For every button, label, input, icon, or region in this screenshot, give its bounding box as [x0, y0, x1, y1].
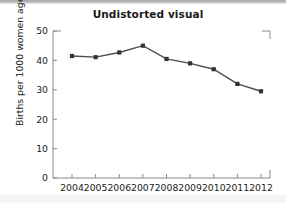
data-line-series	[72, 46, 261, 92]
x-tick-label: 2004	[60, 182, 84, 193]
data-point-marker	[141, 44, 145, 48]
y-tick-label: 30	[36, 84, 48, 95]
plot-area: 01020304050 2004200520062007200820092010…	[0, 0, 286, 203]
data-point-marker	[235, 82, 239, 86]
bottom-edge-band	[0, 195, 286, 203]
y-tick-label: 10	[36, 143, 48, 154]
y-tick-label: 50	[36, 25, 48, 36]
y-tick-label: 40	[36, 55, 48, 66]
x-tick-label: 2006	[107, 182, 131, 193]
x-tick-label: 2007	[131, 182, 155, 193]
data-point-marker	[259, 89, 263, 93]
data-point-marker	[164, 57, 168, 61]
x-tick-label: 2005	[84, 182, 108, 193]
data-point-marker	[94, 55, 98, 59]
y-axis-ticks: 01020304050	[36, 25, 57, 183]
data-point-marker	[117, 50, 121, 54]
data-point-marker	[212, 67, 216, 71]
axis-frame	[53, 31, 270, 178]
x-tick-label: 2012	[249, 182, 273, 193]
data-point-markers	[70, 44, 263, 94]
data-point-marker	[70, 54, 74, 58]
y-tick-label: 0	[42, 172, 48, 183]
data-point-marker	[188, 61, 192, 65]
chart-figure: Undistorted visual Births per 1000 women…	[0, 0, 286, 203]
x-tick-label: 2008	[155, 182, 179, 193]
x-tick-label: 2009	[178, 182, 202, 193]
x-axis-ticks: 200420052006200720082009201020112012	[60, 174, 273, 193]
x-tick-label: 2010	[202, 182, 226, 193]
y-tick-label: 20	[36, 114, 48, 125]
x-tick-label: 2011	[226, 182, 250, 193]
